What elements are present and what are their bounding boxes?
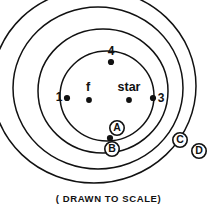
orbit-path-d (0, 0, 196, 183)
orbit-tag-label-d: D (195, 144, 203, 156)
node-dot-1 (64, 95, 70, 101)
node-label-4: 4 (108, 44, 115, 58)
orbit-diagram-canvas: 1234 fstar ABCD ( DRAWN TO SCALE) (0, 0, 217, 211)
node-dot-3 (150, 95, 156, 101)
figure-caption: ( DRAWN TO SCALE) (56, 193, 162, 204)
orbit-tag-a: A (110, 121, 124, 135)
celestial-bodies-group: fstar (86, 80, 141, 103)
orbit-tag-label-b: B (108, 142, 116, 154)
orbit-tag-c: C (173, 133, 187, 147)
node-dot-4 (108, 59, 114, 65)
orbit-tag-label-a: A (113, 121, 121, 133)
orbit-diagram-figure: 1234 fstar ABCD ( DRAWN TO SCALE) (0, 0, 217, 211)
body-label-f: f (86, 80, 91, 94)
body-dot-f (86, 97, 92, 103)
node-label-1: 1 (56, 90, 63, 104)
node-dot-2 (107, 135, 113, 141)
orbit-path-a (60, 51, 154, 141)
body-label-star: star (118, 80, 141, 94)
node-label-3: 3 (158, 91, 165, 105)
orbit-nodes-group: 1234 (56, 44, 165, 157)
body-dot-star (126, 97, 132, 103)
orbit-tag-b: B (105, 142, 119, 156)
orbit-circles-group (0, 0, 196, 183)
orbit-tag-label-c: C (176, 133, 184, 145)
orbit-tag-d: D (192, 144, 206, 158)
